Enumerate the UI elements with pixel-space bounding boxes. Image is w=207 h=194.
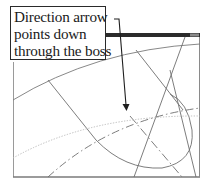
arrow-down-icon — [123, 104, 130, 111]
callout-line-1: Direction arrow — [14, 8, 105, 25]
callout-box: Direction arrow points down through the … — [10, 6, 106, 60]
callout-line-2: points down — [14, 25, 105, 42]
slant-line-a — [134, 37, 185, 177]
title-bar-button[interactable] — [190, 34, 199, 37]
callout-line-3: through the boss — [14, 42, 105, 59]
radial-line-left — [48, 80, 96, 140]
construction-arc — [13, 116, 200, 158]
leader-line — [114, 19, 126, 105]
slant-line-b — [170, 70, 196, 177]
center-line — [48, 108, 200, 177]
boss-outline — [96, 94, 192, 168]
radial-line-mid — [136, 50, 183, 110]
